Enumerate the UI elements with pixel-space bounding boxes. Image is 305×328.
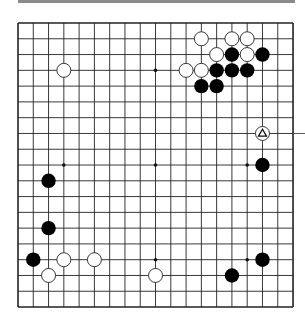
black-stone[interactable]	[255, 47, 269, 61]
white-stone[interactable]	[149, 268, 163, 282]
go-board[interactable]	[0, 0, 305, 328]
hoshi-point	[245, 258, 249, 262]
black-stone[interactable]	[225, 63, 239, 77]
black-stone[interactable]	[225, 268, 239, 282]
black-stone[interactable]	[225, 47, 239, 61]
white-stone[interactable]	[87, 253, 101, 267]
white-stone[interactable]	[240, 32, 254, 46]
white-stone[interactable]	[194, 32, 208, 46]
black-stone[interactable]	[240, 63, 254, 77]
white-stone[interactable]	[225, 32, 239, 46]
black-stone[interactable]	[194, 79, 208, 93]
black-stone[interactable]	[41, 174, 55, 188]
white-stone[interactable]	[210, 48, 224, 62]
white-stone[interactable]	[194, 63, 208, 77]
black-stone[interactable]	[26, 253, 40, 267]
black-stone[interactable]	[209, 63, 223, 77]
stones-layer	[26, 32, 270, 283]
hoshi-point	[154, 69, 158, 73]
white-stone[interactable]	[179, 63, 193, 77]
hoshi-point	[154, 163, 158, 167]
white-stone[interactable]	[240, 48, 254, 62]
black-stone[interactable]	[209, 79, 223, 93]
hoshi-point	[245, 163, 249, 167]
white-stone[interactable]	[255, 126, 269, 140]
black-stone[interactable]	[41, 221, 55, 235]
black-stone[interactable]	[255, 253, 269, 267]
white-stone[interactable]	[57, 253, 71, 267]
hoshi-point	[154, 258, 158, 262]
white-stone[interactable]	[42, 268, 56, 282]
black-stone[interactable]	[255, 158, 269, 172]
white-stone[interactable]	[57, 63, 71, 77]
hoshi-point	[62, 163, 66, 167]
